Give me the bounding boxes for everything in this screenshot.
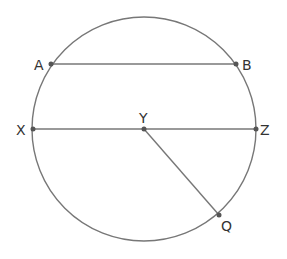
radius-yq — [144, 129, 219, 215]
label-x: X — [16, 122, 26, 138]
label-q: Q — [221, 218, 232, 234]
label-y: Y — [138, 110, 148, 126]
label-z: Z — [260, 122, 270, 138]
point-q — [217, 213, 222, 218]
label-b: B — [242, 57, 252, 73]
point-x — [31, 127, 36, 132]
point-b — [234, 62, 239, 67]
label-a: A — [34, 57, 44, 73]
circle-diagram: A B X Z Y Q — [0, 0, 287, 259]
point-y — [142, 127, 147, 132]
point-z — [254, 127, 259, 132]
point-a — [49, 62, 54, 67]
